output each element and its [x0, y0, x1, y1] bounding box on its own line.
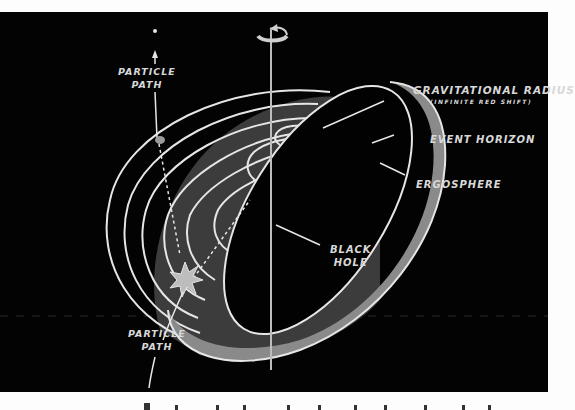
particle-dot-icon	[153, 29, 157, 33]
label-black-hole-line2: HOLE	[330, 256, 372, 269]
label-particle-path-bottom-line1: PARTICLE	[128, 327, 186, 340]
label-gravitational-radius: GRAVITATIONAL RADIUS	[413, 84, 575, 96]
label-particle-path-bottom: PARTICLE PATH	[128, 327, 186, 353]
label-particle-path-bottom-line2: PATH	[128, 340, 186, 353]
label-ergosphere: ERGOSPHERE	[416, 179, 502, 190]
particle-fragment	[155, 136, 165, 144]
label-particle-path-top-line2: PATH	[118, 78, 176, 91]
label-event-horizon: EVENT HORIZON	[430, 134, 536, 145]
particle-path-top-line	[155, 92, 157, 138]
label-black-hole-line1: BLACK	[330, 243, 372, 256]
label-particle-path-top-line1: PARTICLE	[118, 65, 176, 78]
label-black-hole: BLACK HOLE	[330, 243, 372, 269]
caption-fragment	[144, 403, 491, 410]
label-particle-path-top: PARTICLE PATH	[118, 65, 176, 91]
rotation-arrow-icon	[258, 24, 287, 41]
label-infinite-red-shift: (INFINITE RED SHIFT)	[430, 98, 532, 105]
